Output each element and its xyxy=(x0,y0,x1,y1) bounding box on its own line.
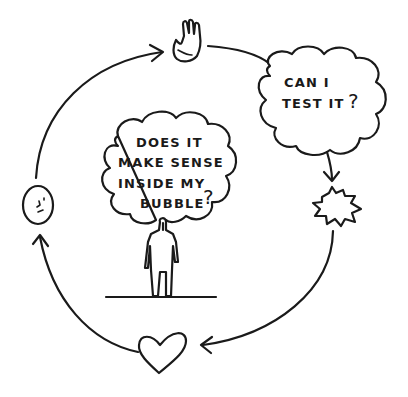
heart-icon xyxy=(139,333,186,373)
test-question-cloud: CAN I TEST IT ? xyxy=(259,47,386,155)
center-thought-bubble: DOES IT MAKE SENSE INSIDE MY BUBBLE ? xyxy=(102,112,236,224)
arrow-cloud-to-burst xyxy=(324,152,339,181)
cloud-text-line-1: CAN I xyxy=(284,75,330,90)
bubble-text-line-4: BUBBLE xyxy=(140,196,205,211)
cycle-diagram: CAN I TEST IT ? DOES IT MAKE SENSE INSID… xyxy=(0,0,408,397)
standing-person-icon xyxy=(145,218,178,296)
arrow-hand-to-cloud xyxy=(208,46,270,64)
bubble-text-line-2: MAKE SENSE xyxy=(118,155,224,170)
bubble-question-mark: ? xyxy=(203,185,214,209)
starburst-icon xyxy=(313,187,361,226)
cloud-text-line-2: TEST IT xyxy=(282,96,345,111)
face-icon xyxy=(23,186,53,224)
bubble-text-line-1: DOES IT xyxy=(136,135,203,150)
bubble-text-line-3: INSIDE MY xyxy=(118,176,205,191)
cloud-question-mark: ? xyxy=(348,89,359,113)
raised-hand-icon xyxy=(174,20,201,62)
arrow-heart-to-face xyxy=(33,235,138,352)
arrow-burst-to-heart xyxy=(201,231,333,353)
